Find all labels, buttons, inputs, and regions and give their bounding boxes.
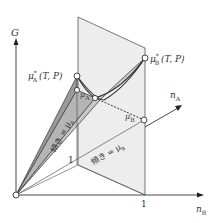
plane-tick-1: 1 bbox=[68, 156, 74, 165]
mu-a-star-label: μ*A (T, P) bbox=[28, 70, 63, 83]
mu-b-star-point bbox=[142, 55, 148, 61]
na-axis bbox=[145, 108, 178, 127]
diagram-canvas bbox=[0, 0, 218, 223]
nb-tick-1: 1 bbox=[141, 200, 147, 209]
mu-a-label: μA bbox=[80, 91, 90, 101]
g-axis-arrow-icon bbox=[14, 38, 19, 45]
g-axis-label: G bbox=[11, 28, 19, 38]
mu-b-label: μB bbox=[125, 113, 135, 123]
mu-b-point bbox=[141, 117, 147, 123]
nb-axis-label: nB bbox=[196, 205, 206, 216]
mu-a-point bbox=[74, 87, 79, 92]
nb-axis-arrow-icon bbox=[197, 193, 204, 198]
mu-a-star-point bbox=[74, 73, 80, 79]
na-axis-label: nA bbox=[170, 91, 180, 102]
mu-b-star-label: μ*B (T, P) bbox=[150, 53, 185, 66]
mu-point bbox=[92, 95, 97, 100]
origin-point bbox=[13, 192, 19, 198]
na-axis-arrow-icon bbox=[175, 105, 182, 111]
